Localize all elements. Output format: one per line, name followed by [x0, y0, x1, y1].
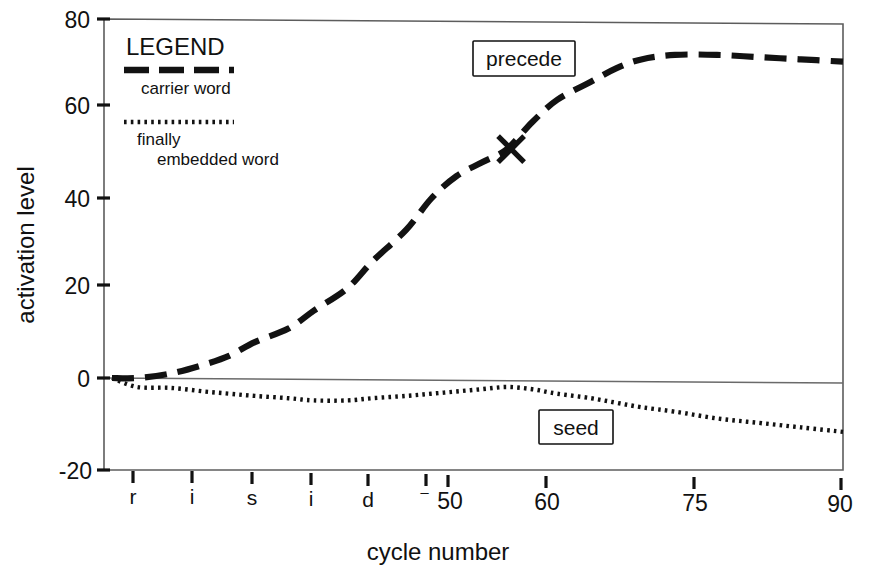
x-axis-tick-labels: r i s i d ⁻ 50 60 75 90: [130, 485, 853, 517]
chart-figure: 80 60 40 20 0 -20 activation level r i s: [0, 0, 869, 573]
y-tick-label-0: 0: [77, 366, 90, 392]
legend-label-embedded-word-line2: embedded word: [157, 150, 279, 169]
precede-label: precede: [486, 47, 562, 70]
x-tick-label-i2: i: [309, 487, 314, 510]
annotation-seed: seed: [539, 410, 613, 444]
series-carrier-word-line: [112, 54, 843, 378]
y-tick-label-20: 20: [64, 273, 90, 299]
x-tick-label-50: 50: [437, 488, 463, 514]
y-tick-label-minus20: -20: [59, 458, 92, 484]
annotation-precede: precede: [473, 41, 575, 76]
x-axis-title: cycle number: [367, 538, 510, 565]
y-tick-label-60: 60: [64, 93, 90, 119]
x-tick-label-d: d: [362, 488, 374, 511]
x-tick-label-i1: i: [190, 485, 195, 508]
x-tick-label-60: 60: [534, 489, 560, 515]
x-tick-label-r: r: [130, 485, 137, 508]
x-tick-label-s: s: [247, 486, 258, 509]
zero-reference-line: [104, 378, 843, 383]
legend-label-embedded-word-line1: finally: [137, 130, 181, 149]
x-tick-label-dash: ⁻: [419, 485, 430, 508]
legend-label-carrier-word: carrier word: [141, 79, 231, 98]
legend-title: LEGEND: [126, 33, 225, 60]
legend: LEGEND carrier word finally embedded wor…: [124, 33, 279, 169]
activation-level-chart: 80 60 40 20 0 -20 activation level r i s: [0, 0, 869, 573]
y-axis-tick-labels: 80 60 40 20 0 -20: [59, 7, 92, 484]
y-tick-label-40: 40: [64, 186, 90, 212]
seed-label: seed: [553, 416, 599, 439]
y-axis-title: activation level: [12, 166, 39, 323]
x-axis-ticks: [133, 471, 841, 490]
x-tick-label-75: 75: [682, 490, 708, 516]
x-tick-label-90: 90: [827, 491, 853, 517]
series-embedded-word-line: [112, 378, 843, 432]
y-tick-label-80: 80: [64, 7, 90, 33]
